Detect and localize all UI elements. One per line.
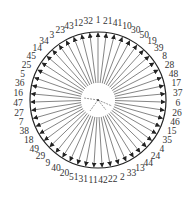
radial-arrow (63, 114, 89, 157)
radial-arrow (31, 101, 81, 103)
sequence-label: 27 (14, 108, 24, 118)
sequence-label: 26 (172, 108, 182, 118)
sequence-label: 22 (108, 174, 118, 184)
radial-arrow (112, 63, 154, 91)
diagram-canvas: 1214110305019398284817376264615354244413… (0, 0, 196, 197)
sequence-label: 11 (89, 175, 98, 185)
radial-arrow (74, 37, 92, 84)
sequence-label: 37 (173, 88, 183, 98)
radial-arrow (32, 103, 82, 111)
sequence-label: 16 (14, 88, 24, 98)
sequence-label: 12 (74, 18, 84, 28)
sequence-label: 31 (79, 174, 89, 184)
radial-arrow (42, 63, 84, 91)
radial-arrow (44, 110, 84, 140)
sequence-label: 34 (39, 36, 49, 46)
sequence-label: 32 (83, 16, 93, 26)
circular-sequence-diagram: 1214110305019398284817376264615354244413… (0, 0, 196, 197)
sequence-label: 33 (127, 168, 137, 178)
radial-arrow (114, 105, 162, 119)
sequence-label: 18 (24, 135, 34, 145)
sequence-label: 4 (159, 144, 164, 154)
sequence-label: 21 (103, 16, 113, 26)
radial-arrow (113, 109, 156, 134)
sequence-label: 3 (49, 30, 54, 40)
radial-arrow (99, 117, 102, 167)
radial-arrow (112, 110, 152, 140)
radial-arrow (50, 112, 86, 147)
radial-arrow (104, 37, 122, 84)
radial-arrow (90, 33, 96, 83)
sequence-label: 43 (64, 21, 74, 31)
radial-arrow (33, 105, 81, 119)
sequence-label: 13 (135, 163, 145, 173)
sequence-label: 6 (176, 98, 181, 108)
sequence-label: 17 (171, 78, 181, 88)
sequence-label: 38 (20, 126, 30, 136)
sequence-label: 5 (20, 69, 25, 79)
sequence-label: 40 (51, 163, 61, 173)
sequence-label: 25 (22, 60, 32, 70)
radial-arrow (59, 45, 88, 86)
radial-arrow (115, 103, 165, 111)
radial-arrow (115, 101, 165, 103)
sequence-label: 9 (45, 158, 50, 168)
radial-arrow (94, 117, 97, 167)
radial-arrow (110, 112, 146, 147)
sequence-label: 47 (13, 98, 23, 108)
radial-arrow (82, 35, 94, 84)
radial-arrow (108, 45, 137, 86)
sequence-label: 7 (19, 117, 24, 127)
sequence-label: 51 (69, 172, 79, 182)
radial-arrow (36, 107, 82, 127)
sequence-label: 2 (120, 172, 125, 182)
radial-arrow (102, 35, 114, 84)
radial-arrow (40, 109, 83, 134)
sequence-label: 36 (15, 78, 25, 88)
sequence-label: 42 (98, 175, 108, 185)
radial-arrow (114, 107, 160, 127)
radial-arrow (107, 114, 133, 157)
sequence-label: 1 (96, 15, 101, 25)
radial-arrow (100, 33, 106, 83)
sequence-label: 41 (113, 18, 123, 28)
sequence-label: 20 (60, 168, 70, 178)
